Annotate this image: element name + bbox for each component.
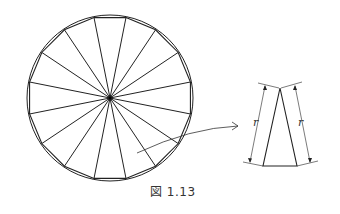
- circle-with-polygon: [27, 15, 193, 181]
- arrow-curve: [137, 126, 238, 153]
- label-r-right: r: [298, 116, 304, 129]
- figure-caption: 図 1.13: [150, 182, 196, 199]
- label-r-left: r: [253, 116, 259, 129]
- center-point: [108, 96, 112, 100]
